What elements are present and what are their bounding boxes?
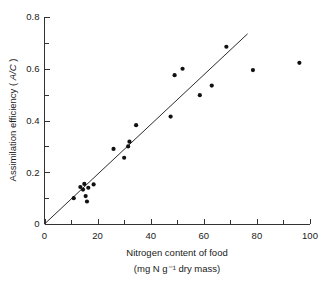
plot-axes <box>45 17 311 225</box>
x-tick-label: 20 <box>92 230 103 241</box>
y-axis-tick-labels: 00.20.40.60.8 <box>26 11 39 229</box>
data-point <box>81 187 85 191</box>
regression-line <box>45 34 248 224</box>
y-axis-title-prefix: Assimilation efficiency ( <box>7 80 18 181</box>
y-axis-ticks <box>45 18 50 225</box>
x-tick-label: 60 <box>199 230 210 241</box>
scatter-plot-figure: 00.20.40.60.8 020406080100 Assimilation … <box>0 0 326 282</box>
y-axis-title-suffix: ) <box>7 59 18 65</box>
data-point <box>172 73 176 77</box>
data-point <box>92 182 96 186</box>
x-tick-label: 80 <box>252 230 263 241</box>
data-point <box>82 182 86 186</box>
data-point <box>180 67 184 71</box>
data-point <box>111 147 115 151</box>
data-point <box>169 115 173 119</box>
data-point <box>224 45 228 49</box>
x-axis-title: Nitrogen content of food <box>126 247 227 258</box>
data-point <box>251 68 255 72</box>
data-point <box>134 123 138 127</box>
data-points <box>72 45 302 204</box>
y-tick-label: 0.2 <box>26 167 39 178</box>
y-tick-label: 0.8 <box>26 11 39 22</box>
y-tick-label: 0.4 <box>26 115 39 126</box>
data-point <box>126 144 130 148</box>
data-point <box>85 199 89 203</box>
x-tick-label: 40 <box>145 230 156 241</box>
x-tick-label: 100 <box>302 230 318 241</box>
data-point <box>198 93 202 97</box>
data-point <box>127 140 131 144</box>
y-tick-label: 0.6 <box>26 63 39 74</box>
y-tick-label: 0 <box>34 218 39 229</box>
x-axis-units-label: (mg N g⁻¹ dry mass) <box>134 263 220 274</box>
data-point <box>86 186 90 190</box>
data-point <box>84 194 88 198</box>
x-axis-tick-labels: 020406080100 <box>42 230 318 241</box>
y-axis-title-symbol: A/C <box>7 64 18 81</box>
x-axis-ticks <box>46 219 311 224</box>
y-axis-title: Assimilation efficiency ( A/C ) <box>7 59 18 182</box>
data-point <box>210 83 214 87</box>
data-point <box>72 196 76 200</box>
plot-canvas: 00.20.40.60.8 020406080100 Assimilation … <box>0 0 326 282</box>
x-tick-label: 0 <box>42 230 47 241</box>
data-point <box>122 156 126 160</box>
data-point <box>297 61 301 65</box>
